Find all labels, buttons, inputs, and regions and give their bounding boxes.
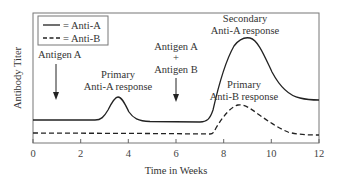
x-tick-label: 8 — [221, 148, 226, 159]
arrow-head-icon — [173, 94, 179, 102]
x-tick-label: 2 — [78, 148, 83, 159]
svg-text:Antigen B: Antigen B — [154, 64, 197, 75]
annotation-secondary-anti-a: Secondary Anti-A response — [211, 13, 280, 36]
y-axis-label: Antibody Titer — [12, 46, 23, 109]
svg-text:Primary: Primary — [227, 79, 262, 90]
annotation-primary-anti-a: Primary Anti-A response — [84, 69, 153, 92]
svg-text:Anti-A response: Anti-A response — [84, 81, 153, 92]
annotation-antigen-a: Antigen A — [38, 49, 82, 100]
svg-text:+: + — [173, 52, 179, 63]
legend: = Anti-A = Anti-B — [38, 16, 108, 45]
x-tick-labels: 0 2 4 6 8 10 12 — [30, 148, 324, 159]
x-tick-label: 4 — [126, 148, 132, 159]
arrow-head-icon — [53, 92, 59, 100]
svg-text:Primary: Primary — [101, 69, 136, 80]
legend-anti-a: = Anti-A — [63, 20, 101, 31]
svg-text:Anti-B response: Anti-B response — [210, 91, 279, 102]
legend-anti-b: = Anti-B — [63, 33, 100, 44]
svg-text:Antigen A: Antigen A — [38, 49, 82, 60]
antibody-titer-chart: 0 2 4 6 8 10 12 Time in Weeks Antibody T… — [0, 0, 339, 182]
x-tick-label: 10 — [266, 148, 277, 159]
x-axis-label: Time in Weeks — [145, 165, 208, 176]
svg-text:Anti-A response: Anti-A response — [211, 25, 280, 36]
x-tick-label: 6 — [173, 148, 178, 159]
svg-text:Antigen A: Antigen A — [154, 41, 198, 52]
x-tick-label: 12 — [314, 148, 325, 159]
svg-text:Secondary: Secondary — [223, 13, 268, 24]
x-axis — [33, 139, 319, 143]
x-tick-label: 0 — [30, 148, 35, 159]
annotation-antigen-a-plus-b: Antigen A + Antigen B — [154, 41, 198, 102]
